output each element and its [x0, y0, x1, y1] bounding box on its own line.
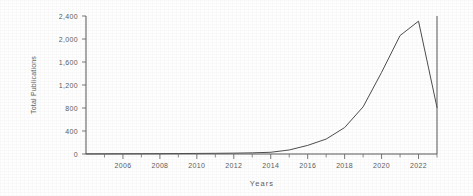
x-tick-label: 2014 [262, 162, 279, 169]
chart-figure: 04008001,2001,6002,0002,400 200620082010… [0, 0, 473, 196]
y-tick-label: 400 [65, 128, 78, 135]
y-axis-ticks: 04008001,2001,6002,0002,400 [59, 13, 86, 158]
y-tick-label: 1,200 [59, 82, 78, 89]
x-tick-label: 2018 [336, 162, 353, 169]
x-tick-label: 2006 [114, 162, 131, 169]
x-axis-title: Years [250, 179, 274, 188]
y-tick-label: 1,600 [59, 59, 78, 66]
x-tick-label: 2012 [225, 162, 242, 169]
line-chart: 04008001,2001,6002,0002,400 200620082010… [0, 0, 473, 196]
y-tick-label: 2,400 [59, 13, 78, 20]
series-line-total-publications [86, 21, 437, 154]
x-tick-label: 2010 [188, 162, 205, 169]
y-tick-label: 2,000 [59, 36, 78, 43]
x-tick-label: 2020 [373, 162, 390, 169]
y-axis-title: Total Publications [30, 56, 37, 114]
x-tick-label: 2016 [299, 162, 316, 169]
x-tick-label: 2008 [151, 162, 168, 169]
y-tick-label: 800 [65, 105, 78, 112]
x-axis-ticks: 200620082010201220142016201820202022 [114, 154, 427, 169]
x-tick-label: 2022 [410, 162, 427, 169]
y-tick-label: 0 [74, 151, 78, 158]
